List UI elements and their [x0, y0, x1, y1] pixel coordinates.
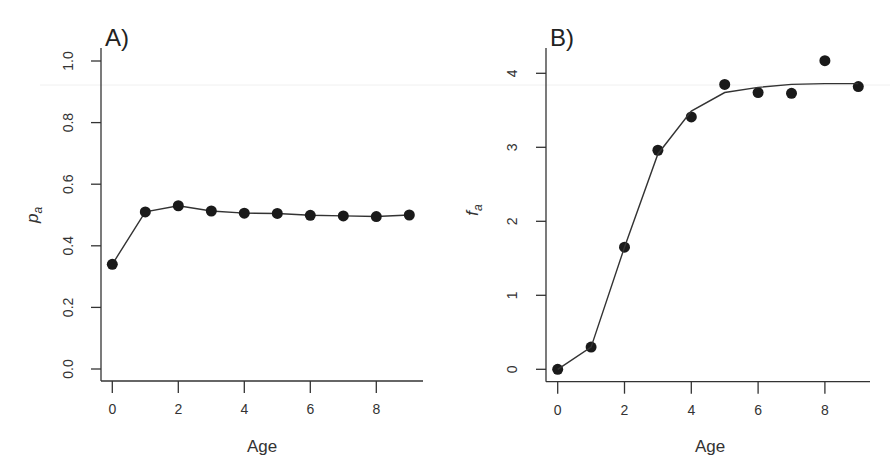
y-axis-label: pa [23, 207, 45, 224]
data-point [819, 55, 830, 66]
x-axis-label: Age [695, 437, 725, 456]
y-tick-label: 4 [504, 69, 520, 77]
series-line [558, 84, 859, 370]
y-tick-label: 0.6 [60, 174, 76, 194]
x-tick-label: 8 [372, 401, 380, 417]
data-point [753, 87, 764, 98]
x-tick-label: 4 [240, 401, 248, 417]
y-tick-label: 0.8 [60, 113, 76, 133]
panel-a: A)0.00.20.40.60.81.002468Agepa [23, 24, 423, 456]
panel-label: A) [105, 24, 129, 51]
x-tick-label: 2 [621, 402, 629, 418]
data-point [206, 205, 217, 216]
data-point [786, 88, 797, 99]
x-tick-label: 6 [754, 402, 762, 418]
data-point [305, 210, 316, 221]
data-point [239, 208, 250, 219]
y-tick-label: 1 [504, 291, 520, 299]
x-tick-label: 0 [554, 402, 562, 418]
panel-label: B) [550, 24, 574, 51]
data-point [173, 200, 184, 211]
data-point [140, 206, 151, 217]
data-point [338, 210, 349, 221]
data-point [853, 81, 864, 92]
data-point [107, 259, 118, 270]
x-tick-label: 8 [821, 402, 829, 418]
y-tick-label: 0.2 [60, 297, 76, 317]
data-point [272, 208, 283, 219]
y-tick-label: 3 [504, 143, 520, 151]
chart-figure: A)0.00.20.40.60.81.002468Agepa B)0123402… [0, 0, 892, 475]
x-tick-label: 6 [306, 401, 314, 417]
x-tick-label: 0 [108, 401, 116, 417]
data-point [371, 211, 382, 222]
y-tick-label: 1.0 [60, 51, 76, 71]
x-axis-label: Age [247, 437, 277, 456]
y-tick-label: 0.4 [60, 236, 76, 256]
y-axis-label: fa [463, 204, 485, 216]
y-tick-label: 0.0 [60, 359, 76, 379]
panel-b: B)0123402468Agefa [463, 24, 870, 456]
y-tick-label: 2 [504, 217, 520, 225]
x-tick-label: 4 [687, 402, 695, 418]
y-tick-label: 0 [504, 365, 520, 373]
series-line [112, 206, 409, 265]
data-point [719, 79, 730, 90]
x-tick-label: 2 [174, 401, 182, 417]
data-point [404, 210, 415, 221]
